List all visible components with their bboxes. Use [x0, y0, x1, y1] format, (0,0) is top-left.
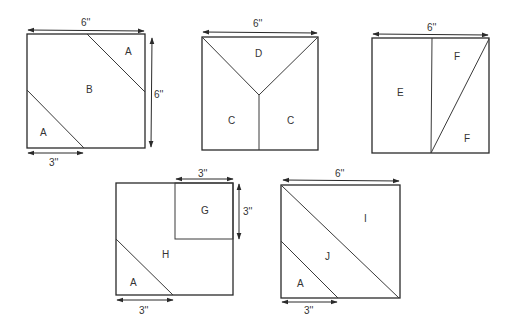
dimension-label: 6''	[427, 22, 436, 33]
piece-label: B	[86, 84, 93, 95]
piece-label: C	[287, 115, 294, 126]
piece-label: I	[364, 213, 367, 224]
piece-label: A	[125, 46, 132, 57]
dimension-label: 3''	[304, 305, 313, 316]
quilt-diagram: A B A 6'' 6'' 3'' D C C 6'' E F F 6'' G	[0, 0, 509, 327]
block-2-left-diagonal	[202, 37, 259, 95]
dimension-label: 3''	[198, 168, 207, 179]
dimension-arrow	[283, 180, 399, 181]
block-1: A B A 6'' 6'' 3''	[27, 17, 163, 168]
block-3-outline	[372, 38, 489, 153]
dimension-arrow	[28, 30, 144, 31]
piece-label: A	[40, 127, 47, 138]
piece-label: A	[297, 278, 304, 289]
dimension-label: 6''	[253, 18, 262, 29]
block-4: G H A 3'' 3'' 3''	[116, 168, 252, 316]
piece-label: D	[255, 48, 262, 59]
block-2-right-diagonal	[259, 37, 318, 95]
block-2: D C C 6''	[202, 18, 318, 150]
dimension-arrow	[151, 38, 152, 147]
dimension-label: 3''	[243, 206, 252, 217]
piece-label: H	[162, 249, 169, 260]
piece-label: F	[464, 133, 470, 144]
block-1-lower-diagonal	[27, 90, 84, 148]
piece-label: J	[325, 251, 330, 262]
dimension-label: 6''	[81, 17, 90, 28]
dimension-arrow	[203, 32, 317, 33]
dimension-label: 6''	[335, 168, 344, 179]
block-5: I J A 6'' 3''	[281, 168, 400, 316]
piece-label: F	[454, 51, 460, 62]
piece-label: A	[130, 277, 137, 288]
piece-label: G	[201, 205, 209, 216]
dimension-arrow	[373, 34, 488, 35]
block-5-lower-diagonal	[281, 241, 338, 298]
block-4-diagonal	[116, 239, 173, 295]
piece-label: E	[397, 87, 404, 98]
dimension-label: 3''	[139, 305, 148, 316]
dimension-label: 6''	[154, 89, 163, 100]
block-3-vertical-line	[431, 38, 432, 153]
block-3: E F F 6''	[372, 22, 489, 153]
piece-label: C	[228, 115, 235, 126]
dimension-label: 3''	[49, 157, 58, 168]
block-1-upper-diagonal	[87, 34, 145, 92]
